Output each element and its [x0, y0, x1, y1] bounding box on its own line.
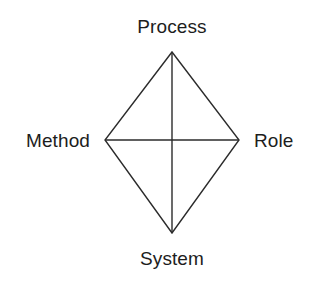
vertex-label-system: System: [0, 249, 318, 268]
vertex-label-method: Method: [0, 131, 90, 150]
diagram-canvas: Process Method Role System: [0, 0, 318, 283]
vertex-label-role: Role: [254, 131, 293, 150]
vertex-label-process: Process: [0, 17, 318, 36]
